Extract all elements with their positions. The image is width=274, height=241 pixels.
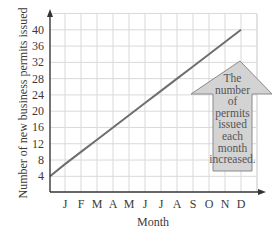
y-tick-label: 16 (32, 120, 44, 134)
x-tick-label: D (237, 197, 246, 211)
annotation-text-line: number (215, 84, 250, 96)
y-tick-labels: 481216202428323640 (32, 23, 44, 184)
y-tick-label: 36 (32, 39, 44, 53)
x-tick-label: O (205, 197, 214, 211)
x-tick-label: M (92, 197, 103, 211)
annotation-text-line: The (224, 72, 242, 84)
y-tick-label: 40 (32, 23, 44, 37)
x-tick-label: J (159, 197, 164, 211)
x-tick-label: S (190, 197, 197, 211)
y-tick-label: 20 (32, 104, 44, 118)
x-tick-labels: JFMAMJJASOND (63, 197, 246, 211)
y-tick-label: 4 (38, 169, 44, 183)
x-tick-label: A (173, 197, 182, 211)
x-tick-label: A (109, 197, 118, 211)
x-tick-label: J (143, 197, 148, 211)
x-tick-label: N (221, 197, 230, 211)
x-axis-arrow-icon (258, 189, 266, 195)
annotation-text-line: issued (218, 118, 247, 130)
y-axis-arrow-icon (47, 9, 53, 17)
x-tick-label: J (63, 197, 68, 211)
x-tick-label: M (124, 197, 135, 211)
y-tick-label: 28 (32, 72, 44, 86)
annotation-text-line: month (218, 142, 248, 154)
annotation-text-line: increased. (209, 153, 255, 165)
y-tick-label: 12 (32, 137, 44, 151)
annotation-arrow: Thenumberofpermitsissuedeachmonthincreas… (191, 61, 272, 171)
x-axis-label: Month (137, 215, 169, 229)
annotation-text-line: of (228, 95, 238, 107)
y-tick-label: 32 (32, 55, 44, 69)
annotation-text-line: each (222, 130, 243, 142)
y-tick-label: 24 (32, 88, 44, 102)
line-chart: Thenumberofpermitsissuedeachmonthincreas… (0, 0, 274, 241)
y-axis-label: Number of new business permits issued (16, 8, 30, 199)
y-tick-label: 8 (38, 153, 44, 167)
x-tick-label: F (78, 197, 85, 211)
